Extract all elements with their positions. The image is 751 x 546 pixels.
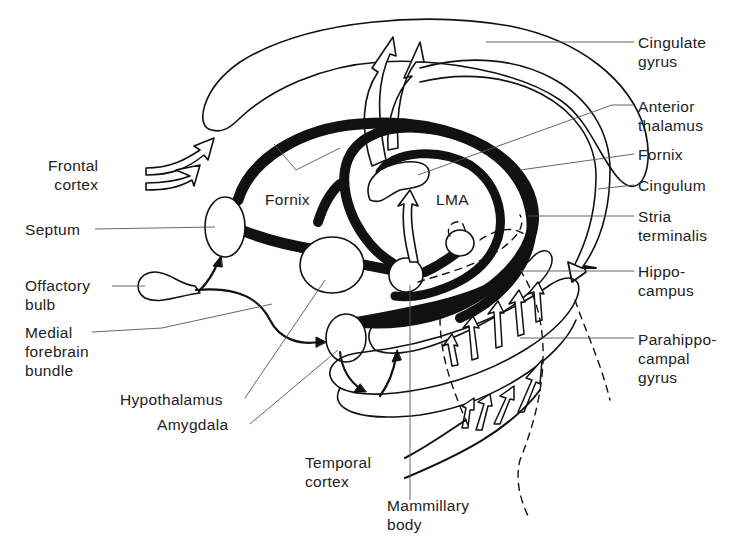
leader-anterior-thalamus xyxy=(418,105,634,175)
amygdala-loop-arrowhead-2 xyxy=(392,350,401,362)
label-frontal-cortex: Frontal cortex xyxy=(48,156,98,194)
hypothalamus-fornix-band xyxy=(318,184,340,222)
label-cingulum: Cingulum xyxy=(638,176,706,195)
label-medial-forebrain-bundle: Medial forebrain bundle xyxy=(25,323,89,380)
label-fornix: Fornix xyxy=(638,145,683,164)
label-cingulate-gyrus: Cingulate gyrus xyxy=(638,33,706,71)
label-mammillary-body: Mammillary body xyxy=(387,496,469,534)
label-anterior-thalamus: Anterior thalamus xyxy=(638,97,703,135)
label-temporal-cortex: Temporal cortex xyxy=(305,453,371,491)
leader-fornix-inner-2 xyxy=(296,148,340,170)
leader-hypothalamus xyxy=(245,280,325,398)
leader-medial-forebrain xyxy=(92,304,272,332)
leader-cingulum xyxy=(598,185,634,189)
olfactory-bulb-shape xyxy=(138,272,200,300)
hypothalamus-shape xyxy=(300,237,364,293)
septum-hypothalamus-band xyxy=(236,228,318,250)
label-lma: LMA xyxy=(436,190,469,209)
olfactory-septum-arrowhead xyxy=(213,256,222,267)
medial-forebrain-bundle-path xyxy=(196,289,320,342)
temporal-cortex-line-1 xyxy=(405,420,466,458)
anterior-thalamus-shape xyxy=(368,162,429,202)
mammillary-body-shape xyxy=(389,258,423,292)
label-septum: Septum xyxy=(25,220,80,239)
label-amygdala: Amygdala xyxy=(157,415,228,434)
medial-forebrain-arrowhead xyxy=(316,337,326,347)
leader-fornix xyxy=(520,154,634,170)
leader-amygdala xyxy=(250,350,338,424)
mammillothalamic-arrow xyxy=(398,190,418,262)
label-parahippocampal-gyrus: Parahippo- campal gyrus xyxy=(638,330,717,387)
label-hippocampus: Hippo- campus xyxy=(638,262,694,300)
label-hypothalamus: Hypothalamus xyxy=(120,390,223,409)
leader-septum xyxy=(95,227,215,229)
label-stria-terminalis: Stria terminalis xyxy=(638,207,707,245)
lma-shape xyxy=(446,230,474,256)
label-fornix-inner: Fornix xyxy=(265,190,310,209)
label-olfactory-bulb: Offactory bulb xyxy=(25,276,90,314)
